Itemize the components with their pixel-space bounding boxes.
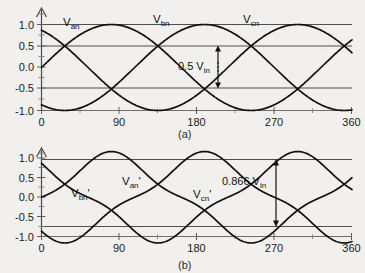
y-axis-a xyxy=(37,8,47,111)
y-tick-label: 0.0 xyxy=(19,61,34,73)
y-tick-label: -1.0 xyxy=(15,105,34,117)
annotation-label-a: 0.5 Vin xyxy=(178,60,210,75)
x-tick-label: 180 xyxy=(187,242,205,254)
x-tick-label: 360 xyxy=(342,116,360,128)
y-tick-label: -0.5 xyxy=(15,211,34,223)
curve-label-vcn-prime: Vcn' xyxy=(193,188,211,203)
curve-label-van: Van xyxy=(63,16,80,31)
x-tick-label: 0 xyxy=(38,242,44,254)
y-tick-label: 0.0 xyxy=(19,191,34,203)
curve-label-vbn: Vbn xyxy=(153,13,170,28)
y-tick-label: -0.5 xyxy=(15,82,34,94)
y-tick-label: 1.0 xyxy=(19,152,34,164)
x-tick-label: 270 xyxy=(265,242,283,254)
annotation-arrow-b xyxy=(273,159,279,227)
y-tick-label: 0.5 xyxy=(19,172,34,184)
annotation-label-b: 0.866 Vin xyxy=(222,175,266,190)
reference-lines-a xyxy=(42,25,353,89)
x-tick-label: 90 xyxy=(113,116,125,128)
x-tick-label: 270 xyxy=(265,116,283,128)
x-tick-label: 180 xyxy=(187,116,205,128)
chart-panel-a: 1.0 0.5 0.0 -0.5 -1.0 0 90 180 270 360 xyxy=(0,0,365,140)
panel-caption-b: (b) xyxy=(178,259,191,271)
y-tick-label: 1.0 xyxy=(19,19,34,31)
x-tick-label: 0 xyxy=(38,116,44,128)
curve-label-vcn: Vcn xyxy=(243,13,259,28)
y-axis-b xyxy=(37,148,47,237)
curve-label-van-prime: Van' xyxy=(122,175,141,190)
y-tick-label: -1.0 xyxy=(15,231,34,243)
curve-label-vbn-prime: Vbn' xyxy=(71,187,90,202)
y-tick-label: 0.5 xyxy=(19,40,34,52)
chart-panel-b: 1.0 0.5 0.0 -0.5 -1.0 0 90 180 270 360 0… xyxy=(0,138,365,273)
annotation-arrow-a xyxy=(215,46,221,89)
figure-container: 1.0 0.5 0.0 -0.5 -1.0 0 90 180 270 360 xyxy=(0,0,365,273)
x-tick-label: 90 xyxy=(113,242,125,254)
